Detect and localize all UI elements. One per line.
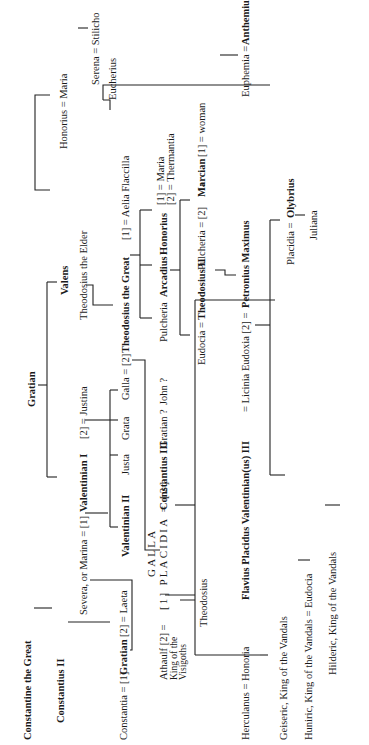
node-anthemius: Anthemius [240,0,251,45]
node-galla: Galla = [2] [120,354,131,400]
family-tree-diagram: Constantine the Great Constantius II Con… [0,0,369,745]
node-arcadius: Arcadius [158,256,169,297]
node-licinia-eudoxia: = Licinia Eudoxia [2] = [240,313,251,412]
node-constantia: Constantia = [1] [118,672,129,740]
node-galla-placidia-first: GALLA [146,529,157,577]
node-theodosius-elder: Theodosius the Elder [78,231,89,320]
node-marcian: Marcian [196,159,207,197]
node-olybrius: Olybrius [285,178,296,218]
node-marcian-first-wife: [1] = woman [196,103,207,157]
node-theodosius-child: Theodosius [198,579,209,627]
node-herculanus-honoria: Herculanus = Honoria [240,647,251,740]
node-pulcheria-empress: Pulcheria = [2] [196,207,207,270]
node-eudocia: Eudocia = [196,322,207,365]
node-constantius-ii: Constantius II [55,659,66,723]
node-pulcheria-sister: Pulcheria [158,302,169,342]
node-valens: Valens [59,266,70,295]
node-geiseric: Geiseric, King of the Vandals [278,616,289,740]
node-honorius-emperor: Honorius [158,213,169,255]
node-justina: [2] = Justina [78,386,89,439]
node-john-uncertain: John ? [158,378,169,405]
node-honorius-wife-thermantia: [2] = Thermantia [165,133,176,205]
node-constantine-the-great: Constantine the Great [22,640,33,740]
node-valentinian-ii: Valentinian II [120,495,131,557]
node-laeta: [2] = Laeta [118,590,129,637]
node-petronius-maximus: Petronius Maximus [240,220,251,308]
node-gratian-top: Gratian [26,371,37,407]
node-athaulf: Athaulf [2] = [158,625,169,681]
node-valentinian-i: Valentinian I [78,454,89,512]
node-justa: Justa [120,454,131,475]
node-honorius-maria: Honorius = Maria [58,74,69,149]
node-hilderic: Hilderic, King of the Vandals [327,552,338,675]
node-serena-stilicho: Serena = Stilicho [90,13,101,85]
node-constantius-iii: Constantius III [158,441,169,510]
node-euphemia: Euphemia = [240,46,251,97]
node-gratian-son: Gratian [118,639,129,675]
node-placidia-daughter: Placidia = [285,223,296,265]
node-severa-marina: Severa, or Marina = [1] [78,516,89,615]
node-juliana: Juliana [308,210,319,240]
node-theodosius-great: Theodosius the Great [120,257,131,353]
node-aelia-flaccilla: [1] = Aelia Flaccilla [120,156,131,240]
node-huniric: Huniric, King of the Vandals = Eudocia [303,574,314,740]
node-valentinian-iii: Flavius Placidus Valentinian(us) III [240,441,251,600]
node-grata: Grata [120,417,131,440]
node-athaulf-title-2: Visigoths [179,644,189,680]
node-eucherius: Eucherius [107,58,118,100]
